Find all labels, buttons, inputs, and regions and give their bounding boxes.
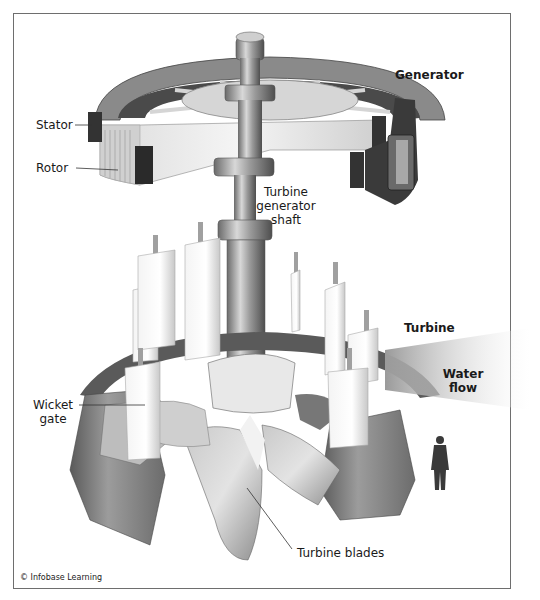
label-shaft-line-3: shaft <box>256 213 316 227</box>
label-rotor: Rotor <box>36 161 68 175</box>
label-shaft-line-1: Turbine <box>256 185 316 199</box>
label-turbine-generator-shaft: Turbine generator shaft <box>256 185 316 227</box>
label-generator: Generator <box>395 68 464 82</box>
label-water-flow-line-1: Water <box>438 367 488 381</box>
label-water-flow: Water flow <box>438 367 488 395</box>
label-water-flow-line-2: flow <box>438 381 488 395</box>
label-wicket-gate: Wicket gate <box>28 398 78 426</box>
copyright-credit: © Infobase Learning <box>20 573 102 582</box>
generator-assembly <box>88 57 445 205</box>
stator-coil-left <box>88 112 102 142</box>
label-wicket-gate-line-1: Wicket <box>28 398 78 412</box>
turbine-generator-illustration <box>0 0 540 600</box>
label-turbine: Turbine <box>404 321 455 335</box>
label-stator: Stator <box>36 118 73 132</box>
label-turbine-blades: Turbine blades <box>297 546 384 560</box>
person-scale-figure <box>431 436 449 490</box>
label-shaft-line-2: generator <box>256 199 316 213</box>
label-wicket-gate-line-2: gate <box>28 412 78 426</box>
